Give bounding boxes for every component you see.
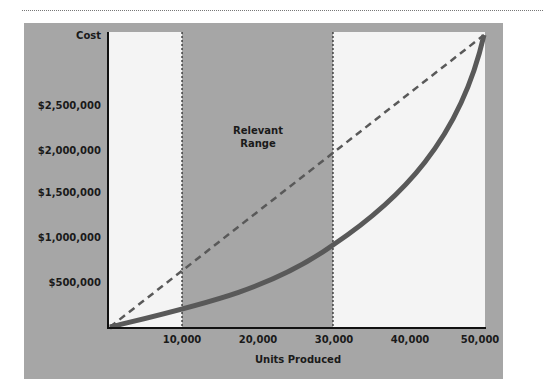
x-tick: 30,000: [315, 334, 354, 345]
x-tick: 50,000: [461, 334, 500, 345]
relevant-range-label-1: Relevant: [233, 125, 283, 136]
y-tick: $2,500,000: [38, 100, 101, 111]
y-tick: $1,000,000: [38, 232, 101, 243]
x-tick: 10,000: [163, 334, 202, 345]
cost-chart: Cost $500,000 $1,000,000 $1,500,000 $2,0…: [0, 0, 543, 389]
y-tick: $1,500,000: [38, 187, 101, 198]
y-tick: $500,000: [48, 277, 101, 288]
x-axis-title: Units Produced: [255, 354, 341, 365]
x-tick: 40,000: [391, 334, 430, 345]
relevant-range-label-2: Range: [240, 138, 276, 149]
y-tick: $2,000,000: [38, 145, 101, 156]
x-tick: 20,000: [239, 334, 278, 345]
y-axis-title: Cost: [76, 30, 101, 41]
